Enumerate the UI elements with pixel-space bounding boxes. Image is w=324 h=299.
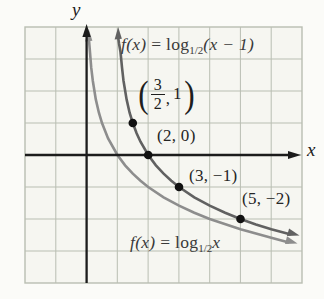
fraction-denominator: 2 bbox=[154, 95, 162, 112]
point-label-three-halves-one: ( 3 2 , 1 ) bbox=[137, 76, 196, 113]
equation-bottom-log: = log bbox=[156, 232, 199, 252]
point-y-value: 1 bbox=[173, 85, 182, 103]
point-label-2-0: (2, 0) bbox=[157, 127, 196, 145]
equation-top-log: = log bbox=[147, 34, 190, 54]
equation-bottom-subscript: 1/2 bbox=[198, 242, 212, 254]
fraction-comma: , bbox=[166, 90, 170, 108]
equation-top-subscript: 1/2 bbox=[189, 44, 203, 56]
equation-bottom-fx: f(x) bbox=[130, 232, 156, 252]
open-paren: ( bbox=[138, 77, 148, 111]
point-dot-2-0 bbox=[144, 151, 153, 160]
y-axis-label: y bbox=[72, 0, 80, 20]
point-dot-5-neg2 bbox=[236, 215, 245, 224]
close-paren: ) bbox=[185, 77, 195, 111]
equation-top-argument: (x − 1) bbox=[203, 34, 254, 54]
equation-top-fx: f(x) bbox=[121, 34, 147, 54]
equation-bottom-argument: x bbox=[212, 232, 220, 252]
point-dot-3-neg1 bbox=[175, 183, 184, 192]
x-axis-label: x bbox=[307, 140, 315, 160]
point-dot-three-halves-one bbox=[129, 119, 138, 128]
point-label-3-neg1: (3, −1) bbox=[189, 167, 238, 185]
point-label-5-neg2: (5, −2) bbox=[242, 190, 291, 208]
fraction-three-over-two: 3 2 bbox=[151, 76, 165, 113]
log-graph-figure: y x f(x) = log1/2(x − 1) ( 3 2 , 1 ) (2,… bbox=[0, 0, 324, 299]
equation-top: f(x) = log1/2(x − 1) bbox=[121, 35, 254, 57]
fraction-numerator: 3 bbox=[151, 76, 165, 95]
equation-bottom: f(x) = log1/2x bbox=[130, 233, 220, 255]
